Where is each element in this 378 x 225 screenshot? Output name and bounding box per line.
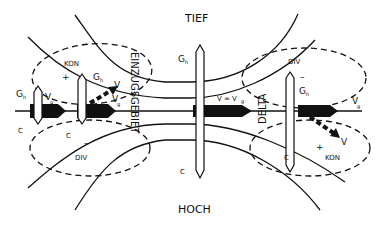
svg-text:g: g xyxy=(50,99,53,106)
kon-region-right xyxy=(250,120,370,176)
svg-text:–: – xyxy=(84,138,89,148)
svg-text:V: V xyxy=(341,137,348,147)
einzugsgebiet-label: EINZUGSGEBIET xyxy=(129,52,140,134)
gradient-arrow-left-2 xyxy=(78,74,86,124)
svg-text:–: – xyxy=(300,72,305,82)
svg-text:G: G xyxy=(178,54,185,64)
div-label-left: DIV xyxy=(75,154,87,162)
svg-text:C: C xyxy=(66,132,71,140)
svg-text:g: g xyxy=(117,101,120,108)
svg-text:G: G xyxy=(299,86,306,96)
center-v-vg-label: V = V xyxy=(217,95,237,103)
div-label-right: DIV xyxy=(288,58,300,66)
wind-arrow-right xyxy=(298,105,338,117)
kon-label-left: KON xyxy=(64,60,79,68)
svg-text:g: g xyxy=(241,98,244,105)
hoch-label: HOCH xyxy=(178,203,211,216)
geostrophic-flow-diagram: TIEF HOCH EINZUGSGEBIET DELTA V = V g KO… xyxy=(0,0,378,225)
ageostrophic-arrow-left xyxy=(90,90,112,103)
gradient-arrow-left-1 xyxy=(34,86,42,124)
svg-text:h: h xyxy=(23,94,26,100)
svg-text:g: g xyxy=(357,103,360,110)
svg-text:h: h xyxy=(185,59,188,65)
svg-text:h: h xyxy=(100,77,103,83)
plus-left: + xyxy=(62,72,70,82)
svg-text:h: h xyxy=(306,91,309,97)
svg-text:V: V xyxy=(114,80,121,90)
ageostrophic-arrow-right xyxy=(310,117,335,134)
gradient-arrow-center xyxy=(196,45,204,178)
plus-right: + xyxy=(316,142,324,152)
svg-text:C: C xyxy=(284,154,289,162)
delta-label: DELTA xyxy=(257,93,268,124)
tief-label: TIEF xyxy=(184,12,208,25)
svg-text:C: C xyxy=(180,168,185,176)
svg-text:C: C xyxy=(18,127,23,135)
svg-text:G: G xyxy=(93,72,100,82)
kon-label-right: KON xyxy=(325,154,340,162)
svg-text:G: G xyxy=(16,89,23,99)
